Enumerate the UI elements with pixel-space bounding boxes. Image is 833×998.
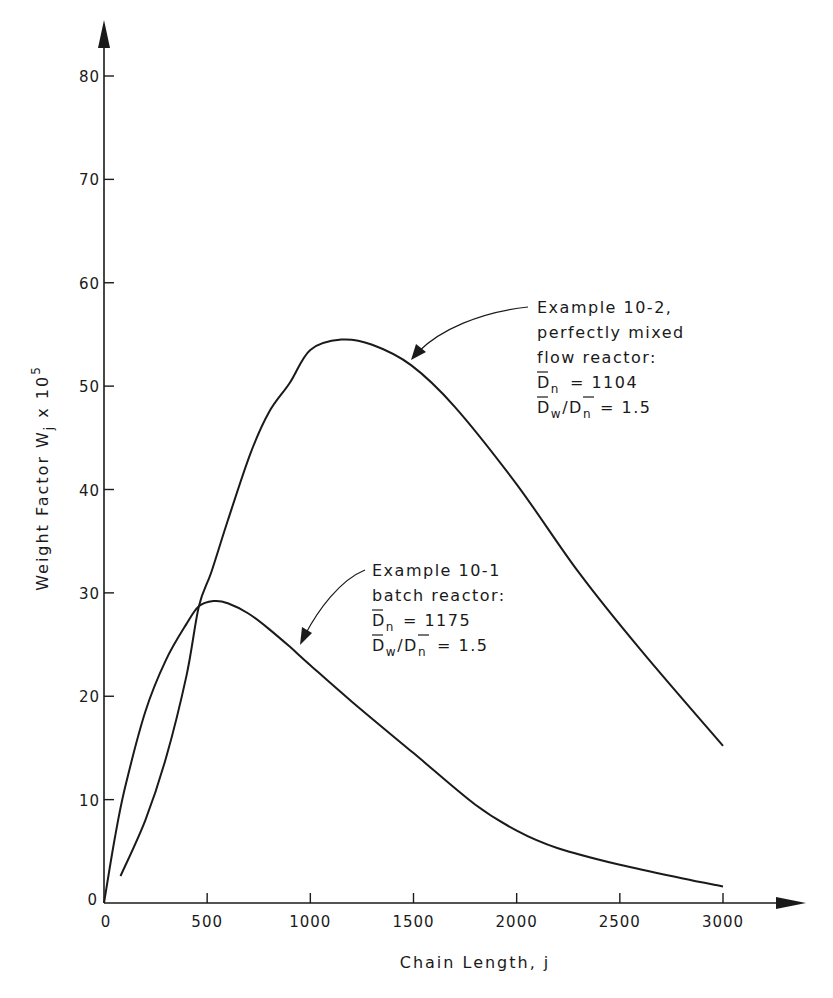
y-tick-label: 0 bbox=[87, 891, 98, 909]
dw-symbol: D bbox=[537, 398, 551, 417]
x-tick-label: 1000 bbox=[289, 913, 331, 931]
y-axis-ticks: 01020304050607080 bbox=[79, 68, 114, 909]
x-tick-label: 2500 bbox=[599, 913, 641, 931]
chart-canvas: 01020304050607080 0500100015002000250030… bbox=[0, 0, 833, 998]
x-tick-label: 0 bbox=[101, 913, 112, 931]
annotation-cstr-line2: perfectly mixed bbox=[537, 323, 685, 342]
ratio-slash: / bbox=[562, 398, 569, 417]
y-tick-label: 60 bbox=[79, 275, 100, 293]
x-axis-ticks: 050010001500200025003000 bbox=[101, 893, 744, 931]
dn-subscript-2: n bbox=[418, 645, 427, 659]
y-axis-arrow-icon bbox=[98, 20, 110, 48]
annotation-batch-arrowhead-icon bbox=[300, 627, 312, 645]
annotation-cstr-leader bbox=[418, 307, 528, 352]
x-tick-label: 2000 bbox=[496, 913, 538, 931]
y-tick-label: 20 bbox=[79, 688, 100, 706]
x-tick-label: 500 bbox=[191, 913, 223, 931]
annotation-cstr-dn: Dn= 1104 bbox=[537, 373, 638, 396]
annotation-batch: Example 10-1 batch reactor: Dn= 1175 Dw/… bbox=[300, 561, 506, 659]
y-tick-label: 30 bbox=[79, 585, 100, 603]
ratio-value: = 1.5 bbox=[437, 636, 488, 655]
dn-subscript-2: n bbox=[583, 407, 592, 421]
y-axis-title-mid: x 10 bbox=[33, 375, 52, 425]
y-tick-label: 10 bbox=[79, 792, 100, 810]
axes bbox=[98, 20, 806, 909]
y-tick-label: 70 bbox=[79, 171, 100, 189]
dn-subscript: n bbox=[386, 620, 395, 634]
x-axis-arrow-icon bbox=[776, 897, 806, 909]
y-axis-title: Weight Factor Wj x 105 bbox=[29, 365, 56, 591]
y-tick-label: 40 bbox=[79, 482, 100, 500]
dw-subscript: w bbox=[386, 645, 397, 659]
annotation-cstr-ratio: Dw/Dn= 1.5 bbox=[537, 398, 651, 421]
annotation-batch-line1: Example 10-1 bbox=[372, 561, 501, 580]
annotation-batch-dn: Dn= 1175 bbox=[372, 611, 471, 634]
dn-value: = 1175 bbox=[403, 611, 471, 630]
dn-value: = 1104 bbox=[570, 373, 638, 392]
ratio-slash: / bbox=[397, 636, 404, 655]
dn-symbol: D bbox=[372, 611, 386, 630]
y-axis-title-main: Weight Factor W bbox=[33, 430, 52, 591]
annotation-batch-leader bbox=[305, 570, 365, 635]
annotation-cstr-line1: Example 10-2, bbox=[537, 298, 672, 317]
annotation-batch-ratio: Dw/Dn= 1.5 bbox=[372, 636, 488, 659]
dw-subscript: w bbox=[551, 407, 562, 421]
dn-symbol-2: D bbox=[569, 398, 583, 417]
ratio-value: = 1.5 bbox=[600, 398, 651, 417]
series-cstr-curve bbox=[121, 339, 724, 876]
x-tick-label: 1500 bbox=[392, 913, 434, 931]
y-axis-title-sup: 5 bbox=[29, 365, 43, 375]
dn-symbol-2: D bbox=[404, 636, 418, 655]
x-tick-label: 3000 bbox=[702, 913, 744, 931]
y-tick-label: 80 bbox=[79, 68, 100, 86]
dn-subscript: n bbox=[551, 382, 560, 396]
annotation-batch-line2: batch reactor: bbox=[372, 586, 506, 605]
y-tick-label: 50 bbox=[79, 378, 100, 396]
annotation-cstr-line3: flow reactor: bbox=[537, 348, 657, 367]
dn-symbol: D bbox=[537, 373, 551, 392]
x-axis-title: Chain Length, j bbox=[400, 953, 551, 972]
dw-symbol: D bbox=[372, 636, 386, 655]
